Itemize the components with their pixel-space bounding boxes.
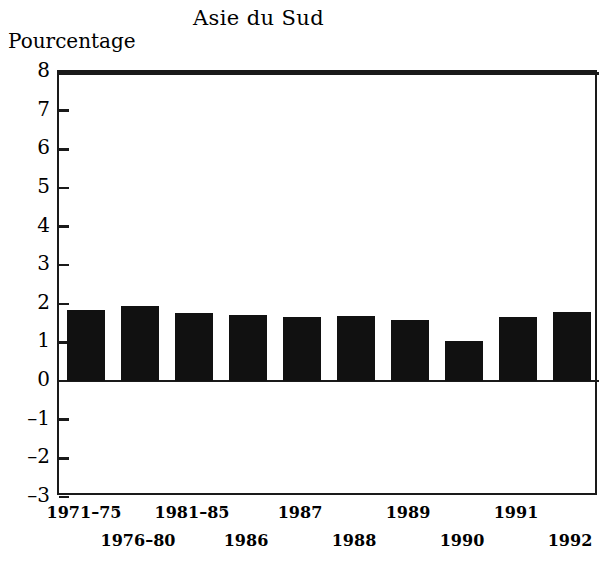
y-axis-tick [59, 187, 69, 190]
y-axis-tick [59, 264, 69, 267]
y-axis-tick-label: –2 [6, 446, 50, 466]
y-axis-tick-label: 1 [6, 330, 50, 350]
plot-area [57, 70, 597, 495]
bar [67, 310, 105, 381]
y-axis-tick [59, 457, 69, 460]
y-axis-tick-label: 5 [6, 176, 50, 196]
bar [553, 312, 591, 382]
x-axis-tick-label: 1988 [332, 531, 377, 550]
chart-title: Asie du Sud [0, 6, 613, 30]
y-axis-tick-label: 2 [6, 292, 50, 312]
x-axis-tick-labels: 1971–751976–801981–851986198719881989199… [57, 495, 597, 561]
y-axis-tick-label: 6 [6, 137, 50, 157]
y-axis-tick-label: 8 [6, 60, 50, 80]
bar [229, 315, 267, 381]
x-axis-tick-label: 1981–85 [155, 503, 230, 522]
x-axis-tick-label: 1991 [494, 503, 539, 522]
bar-chart: Asie du Sud Pourcentage 876543210–1–2–3 … [0, 0, 613, 564]
y-axis-tick-label: 4 [6, 215, 50, 235]
y-axis-tick-label: –3 [6, 485, 50, 505]
x-axis-tick-label: 1986 [224, 531, 269, 550]
y-axis-tick [59, 418, 69, 421]
bar [499, 317, 537, 382]
bar [391, 320, 429, 381]
y-axis-tick [59, 225, 69, 228]
bar [121, 306, 159, 381]
bar [175, 313, 213, 381]
y-axis-tick [59, 148, 69, 151]
y-axis-tick-label: 0 [6, 369, 50, 389]
x-axis-tick-label: 1990 [440, 531, 485, 550]
chart-title-text: Asie du Sud [193, 6, 324, 30]
bar [445, 341, 483, 382]
y-axis-tick [59, 303, 69, 306]
x-axis-tick-label: 1987 [278, 503, 323, 522]
x-axis-tick-label: 1976–80 [101, 531, 176, 550]
bar [337, 316, 375, 381]
y-axis-tick-labels: 876543210–1–2–3 [0, 70, 50, 495]
y-axis-tick [59, 109, 69, 112]
y-axis-label: Pourcentage [8, 29, 136, 53]
x-axis-tick-label: 1989 [386, 503, 431, 522]
bar [283, 317, 321, 381]
y-axis-tick-label: 3 [6, 253, 50, 273]
x-axis-tick-label: 1971–75 [47, 503, 122, 522]
zero-baseline [59, 72, 599, 75]
y-axis-tick-label: 7 [6, 99, 50, 119]
x-axis-tick-label: 1992 [548, 531, 593, 550]
y-axis-tick-label: –1 [6, 408, 50, 428]
